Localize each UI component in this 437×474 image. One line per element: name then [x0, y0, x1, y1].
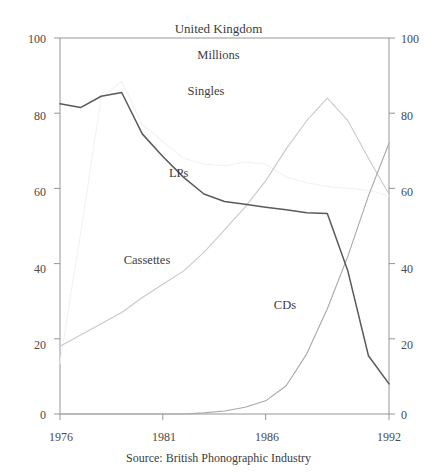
chart-figure: United Kingdom Millions 100 80 60 40 20 … [0, 0, 437, 474]
y-tick-label-left-100: 100 [12, 33, 46, 45]
series-line-lps [60, 93, 389, 384]
y-tick-label-right-40: 40 [401, 263, 437, 275]
y-tick-label-left-20: 20 [12, 339, 46, 351]
y-tick-label-left-0: 0 [12, 409, 46, 421]
y-tick-label-left-40: 40 [12, 263, 46, 275]
series-line-cds [60, 143, 389, 414]
x-tick-label-1981: 1981 [134, 431, 194, 443]
series-label-singles: Singles [187, 85, 224, 98]
plot-area [0, 0, 437, 474]
y-tick-label-right-60: 60 [401, 186, 437, 198]
y-tick-label-right-0: 0 [401, 409, 437, 421]
y-tick-label-right-20: 20 [401, 339, 437, 351]
source-caption: Source: British Phonographic Industry [0, 452, 437, 464]
series-line-singles [60, 81, 389, 363]
x-tick-label-1992: 1992 [359, 431, 419, 443]
series-label-cassettes: Cassettes [124, 254, 171, 267]
x-tick-label-1976: 1976 [31, 431, 91, 443]
y-tick-label-right-100: 100 [401, 33, 437, 45]
series-line-cassettes [60, 98, 389, 346]
x-tick-label-1986: 1986 [237, 431, 297, 443]
y-tick-label-left-80: 80 [12, 110, 46, 122]
y-tick-label-right-80: 80 [401, 110, 437, 122]
series-label-lps: LPs [169, 167, 188, 180]
y-tick-label-left-60: 60 [12, 186, 46, 198]
series-label-cds: CDs [274, 299, 296, 312]
